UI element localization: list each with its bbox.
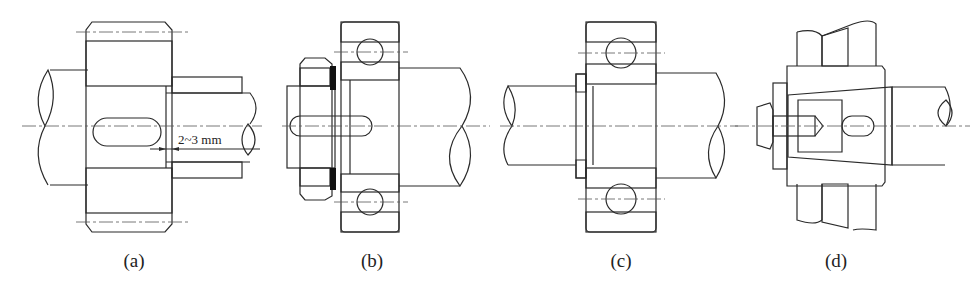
sleeve-top <box>172 77 242 93</box>
keyway-slot <box>93 118 161 146</box>
gear-rim-top <box>86 41 172 86</box>
panel-c-drawing <box>500 22 738 232</box>
panel-a-drawing: 2~3 mm <box>22 22 262 232</box>
tab-washer-top <box>330 66 336 90</box>
gear-rim-bottom <box>86 168 172 213</box>
caption-c: (c) <box>610 250 631 272</box>
panel-d-drawing <box>735 21 970 230</box>
panel-b-drawing <box>282 22 490 232</box>
caption-b: (b) <box>361 250 383 272</box>
caption-a: (a) <box>123 250 144 272</box>
sleeve-bottom <box>172 162 242 178</box>
gap-dimension-label: 2~3 mm <box>178 132 222 147</box>
technical-drawing: 2~3 mm <box>0 0 975 286</box>
tab-washer-bottom <box>330 168 336 190</box>
shaft-section-left <box>38 70 53 126</box>
caption-d: (d) <box>825 250 847 272</box>
